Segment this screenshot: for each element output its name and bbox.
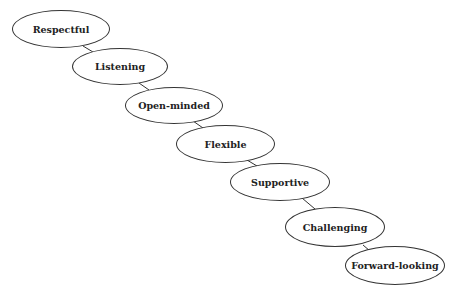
node-label: Challenging [303,222,368,233]
node-label: Forward-looking [351,260,439,271]
node-supportive: Supportive [230,163,330,201]
node-label: Listening [95,61,145,72]
diagram-canvas: Respectful Listening Open-minded Flexibl… [0,0,451,295]
node-label: Respectful [33,24,90,35]
node-listening: Listening [72,48,168,85]
node-label: Supportive [251,177,309,188]
node-respectful: Respectful [12,10,110,48]
node-label: Flexible [205,139,247,150]
node-open-minded: Open-minded [125,87,223,124]
node-challenging: Challenging [285,207,385,247]
node-label: Open-minded [138,100,210,111]
node-flexible: Flexible [176,125,275,163]
node-forward-looking: Forward-looking [345,246,445,285]
